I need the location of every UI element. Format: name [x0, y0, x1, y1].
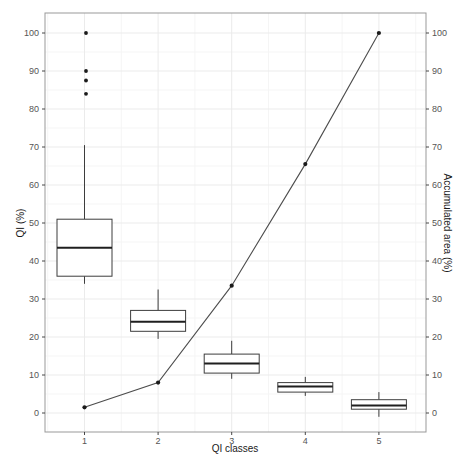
right-tick-label: 50 [432, 218, 442, 228]
right-tick-label: 0 [432, 408, 437, 418]
right-tick-label: 90 [432, 66, 442, 76]
x-axis-title: QI classes [212, 443, 259, 454]
left-tick-label: 60 [29, 180, 39, 190]
left-axis-title: QI (%) [15, 209, 26, 238]
boxplot-figure: 0010102020303040405050606070708080909010… [0, 0, 462, 467]
left-tick-label: 90 [29, 66, 39, 76]
line-point [82, 405, 86, 409]
left-tick-label: 50 [29, 218, 39, 228]
right-tick-label: 80 [432, 104, 442, 114]
outlier-point [84, 31, 88, 35]
line-point [377, 31, 381, 35]
x-tick-label: 4 [303, 436, 308, 446]
right-tick-label: 20 [432, 332, 442, 342]
left-tick-label: 30 [29, 294, 39, 304]
left-tick-label: 70 [29, 142, 39, 152]
left-tick-label: 10 [29, 370, 39, 380]
left-tick-label: 40 [29, 256, 39, 266]
left-tick-label: 0 [34, 408, 39, 418]
right-tick-label: 60 [432, 180, 442, 190]
left-tick-label: 100 [24, 28, 39, 38]
right-tick-label: 40 [432, 256, 442, 266]
line-point [303, 162, 307, 166]
outlier-point [84, 92, 88, 96]
x-tick-label: 5 [376, 436, 381, 446]
right-tick-label: 100 [432, 28, 447, 38]
line-point [230, 284, 234, 288]
right-tick-label: 70 [432, 142, 442, 152]
boxplot-line-chart: 0010102020303040405050606070708080909010… [0, 0, 462, 467]
left-tick-label: 80 [29, 104, 39, 114]
right-axis-title: Accumulated area (%) [442, 174, 453, 273]
x-tick-label: 2 [156, 436, 161, 446]
right-tick-label: 10 [432, 370, 442, 380]
right-tick-label: 30 [432, 294, 442, 304]
line-point [156, 381, 160, 385]
outlier-point [84, 79, 88, 83]
x-tick-label: 1 [82, 436, 87, 446]
left-tick-label: 20 [29, 332, 39, 342]
outlier-point [84, 69, 88, 73]
